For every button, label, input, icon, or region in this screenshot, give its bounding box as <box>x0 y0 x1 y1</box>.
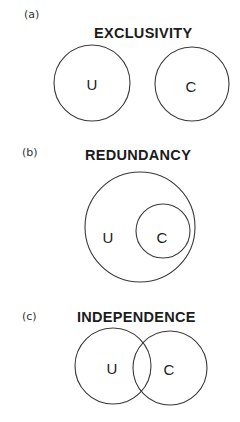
set-u-label: U <box>107 360 118 377</box>
set-u-label: U <box>87 76 98 93</box>
set-u-circle <box>85 172 195 282</box>
exclusivity-diagram: U C <box>54 45 229 121</box>
set-u-label: U <box>103 229 114 246</box>
set-c-label: C <box>157 229 168 246</box>
independence-diagram: U C <box>75 328 207 405</box>
venn-diagrams: U C U C U C <box>0 0 240 422</box>
set-c-label: C <box>186 78 197 95</box>
set-c-label: C <box>164 361 175 378</box>
redundancy-diagram: U C <box>85 172 195 282</box>
